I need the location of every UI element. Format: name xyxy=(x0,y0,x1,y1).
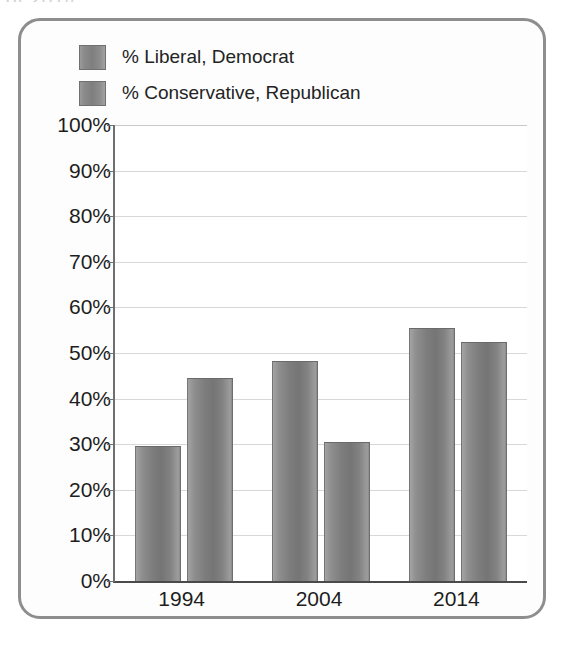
bar[interactable] xyxy=(187,378,233,581)
x-axis-tick-label: 1994 xyxy=(158,587,205,611)
bar[interactable] xyxy=(324,442,370,581)
bar-series-container xyxy=(115,125,527,581)
y-axis-tick-label: 50% xyxy=(37,341,111,365)
y-axis-tick-mark xyxy=(107,399,115,400)
y-axis-tick-label: 40% xyxy=(37,387,111,411)
y-axis-tick-label: 70% xyxy=(37,250,111,274)
y-axis-tick-mark xyxy=(107,353,115,354)
y-axis-tick-label: 100% xyxy=(37,113,111,137)
bar[interactable] xyxy=(461,342,507,581)
y-axis-tick-mark xyxy=(107,581,115,582)
y-axis-tick-label: 10% xyxy=(37,523,111,547)
y-axis-tick-label: 0% xyxy=(37,569,111,593)
y-axis-tick-label: 80% xyxy=(37,204,111,228)
bar-group xyxy=(409,125,507,581)
bar[interactable] xyxy=(272,361,318,581)
x-axis-tick-labels: 199420042014 xyxy=(113,587,525,621)
bar-group xyxy=(135,125,233,581)
clipped-top-caption: of 2014 xyxy=(6,0,76,2)
y-axis-tick-mark xyxy=(107,262,115,263)
y-axis-tick-mark xyxy=(107,216,115,217)
y-axis-tick-label: 60% xyxy=(37,295,111,319)
y-axis-tick-mark xyxy=(107,490,115,491)
bar[interactable] xyxy=(135,446,181,581)
bar-group xyxy=(272,125,370,581)
bar[interactable] xyxy=(409,328,455,581)
y-axis-tick-mark xyxy=(107,535,115,536)
chart-frame: % Liberal, Democrat % Conservative, Repu… xyxy=(18,18,546,619)
y-axis-tick-mark xyxy=(107,171,115,172)
plot-area xyxy=(113,125,527,583)
y-axis-tick-mark xyxy=(107,307,115,308)
x-axis-tick-label: 2014 xyxy=(433,587,480,611)
y-axis-tick-label: 30% xyxy=(37,432,111,456)
x-axis-tick-label: 2004 xyxy=(296,587,343,611)
plot-wrapper: 0%10%20%30%40%50%60%70%80%90%100% 199420… xyxy=(21,21,549,622)
y-axis-tick-labels: 0%10%20%30%40%50%60%70%80%90%100% xyxy=(23,21,111,622)
y-axis-tick-label: 90% xyxy=(37,159,111,183)
y-axis-tick-mark xyxy=(107,444,115,445)
y-axis-tick-mark xyxy=(107,125,115,126)
y-axis-tick-label: 20% xyxy=(37,478,111,502)
